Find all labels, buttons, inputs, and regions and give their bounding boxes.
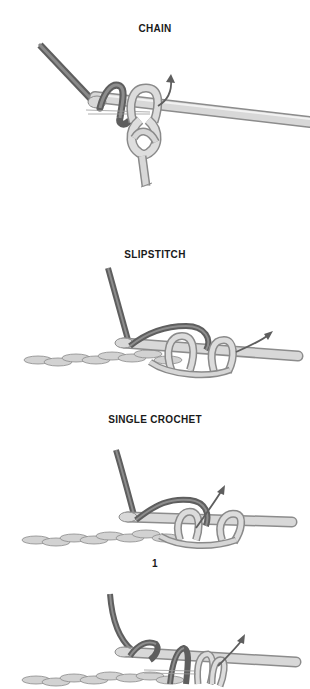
section-title-slipstitch: SLIPSTITCH <box>0 249 310 260</box>
slipstitch-diagram <box>0 265 310 385</box>
single-crochet-step-1-diagram <box>0 445 310 550</box>
step-number: 1 <box>0 558 310 569</box>
section-title-chain: CHAIN <box>0 23 310 34</box>
single-crochet-step-2-diagram <box>0 590 310 689</box>
chain-diagram <box>0 40 310 200</box>
section-title-single-crochet: SINGLE CROCHET <box>0 414 310 425</box>
